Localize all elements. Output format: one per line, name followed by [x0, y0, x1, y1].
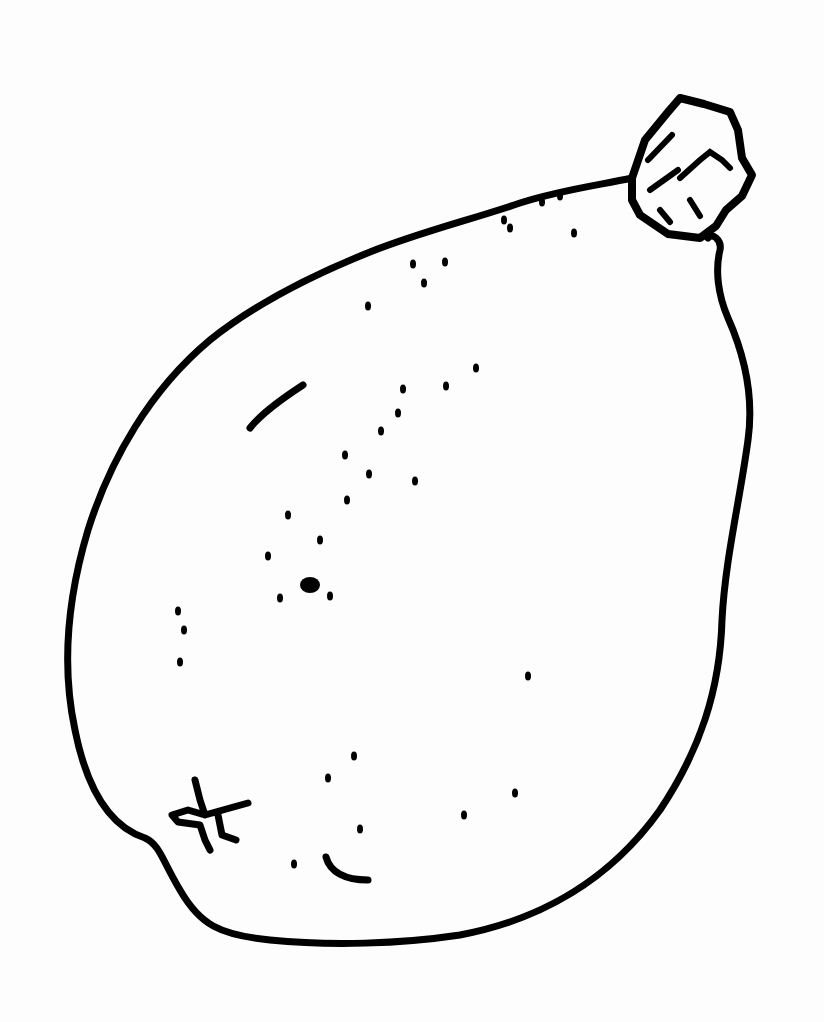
speckle-dot — [344, 496, 350, 505]
speckle-dot — [175, 607, 181, 616]
speckle-dot — [351, 752, 357, 761]
speckle-dot — [285, 511, 291, 520]
speckle-dot — [177, 658, 183, 667]
speckle-dot — [421, 279, 427, 288]
speckle-dot — [342, 451, 348, 460]
speckle-dot — [181, 626, 187, 635]
speckle-dot — [327, 592, 333, 601]
speckle-dot — [539, 198, 545, 207]
speckle-dot — [365, 302, 371, 311]
speckle-dot — [507, 224, 513, 233]
speckle-dot — [501, 216, 507, 225]
speckle-dot — [357, 825, 363, 834]
speckle-dot — [443, 382, 449, 391]
speckle-dot — [473, 364, 479, 373]
speckle-dot — [557, 192, 563, 201]
speckle-dot — [265, 552, 271, 561]
speckle-dot — [395, 409, 401, 418]
speckle-dot — [571, 229, 577, 238]
speckle-dot — [512, 789, 518, 798]
speckle-dot — [300, 577, 320, 593]
speckle-dot — [277, 594, 283, 603]
speckle-dot — [291, 860, 297, 869]
background — [0, 0, 824, 1022]
speckle-dot — [317, 536, 323, 545]
speckle-dot — [412, 477, 418, 486]
pear-drawing — [0, 0, 824, 1022]
speckle-dot — [410, 260, 416, 269]
speckle-dot — [325, 774, 331, 783]
speckle-dot — [461, 811, 467, 820]
speckle-dot — [378, 427, 384, 436]
speckle-dot — [442, 258, 448, 267]
speckle-dot — [400, 385, 406, 394]
speckle-dot — [366, 470, 372, 479]
speckle-dot — [525, 672, 531, 681]
